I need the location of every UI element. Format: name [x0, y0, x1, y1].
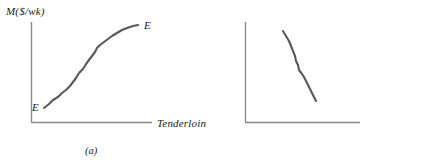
- panel-b-engel-curve: [283, 31, 316, 101]
- panel-a-endpoint-label-low: E: [32, 102, 39, 113]
- chart-panel-a: M($/wk) Tenderloin E E (a): [0, 0, 210, 168]
- panel-a-caption: (a): [85, 146, 97, 157]
- chart-panel-b: M($/wk) Hamburger E E (b): [210, 0, 421, 168]
- panel-a-engel-curve: [44, 25, 138, 108]
- figure-canvas: M($/wk) Tenderloin E E (a) M($/wk) Hambu…: [0, 0, 421, 168]
- panel-a-x-axis-label: Tenderloin: [157, 118, 206, 129]
- panel-a-endpoint-label-high: E: [144, 20, 151, 31]
- panel-b-plot-area: [210, 0, 421, 168]
- panel-a-plot-area: [0, 0, 210, 168]
- panel-a-y-axis-label: M($/wk): [6, 6, 45, 17]
